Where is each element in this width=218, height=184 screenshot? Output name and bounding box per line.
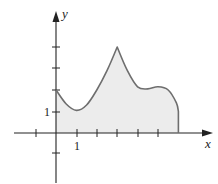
y-axis-label: y	[60, 6, 68, 21]
x-tick-label-1: 1	[74, 139, 80, 153]
y-axis-arrow-icon	[53, 11, 60, 22]
y-tick-label-1: 1	[44, 105, 50, 119]
x-axis-label: x	[204, 136, 211, 151]
shaded-area	[56, 47, 178, 133]
area-under-curve-graph: y x 1 1	[0, 0, 218, 184]
